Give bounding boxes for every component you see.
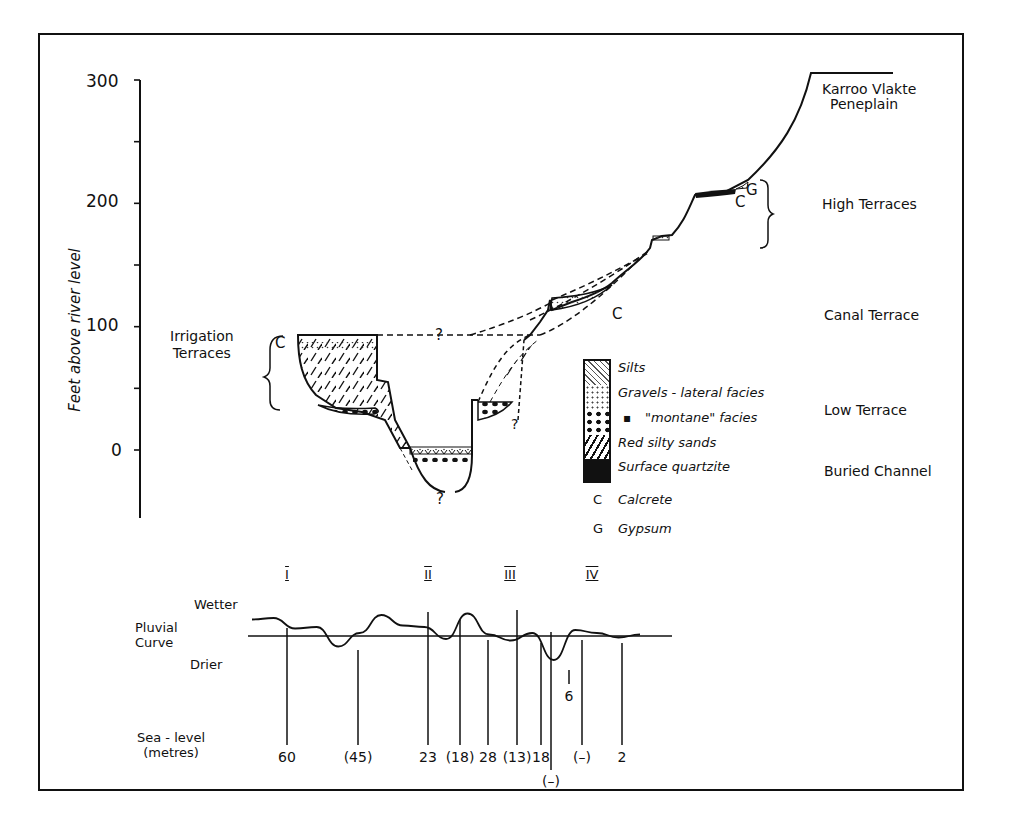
legend-swatch-column <box>583 359 611 483</box>
swatch-surface-quartzite <box>585 459 609 481</box>
label-line: (metres) <box>137 745 205 760</box>
terrace-label-high: High Terraces <box>822 196 917 212</box>
high-terrace-gravel <box>653 236 669 240</box>
legend-symbol-calcrete: C <box>593 492 602 507</box>
y-tick-label: 200 <box>86 191 118 211</box>
swatch-gravels-lateral <box>585 385 609 410</box>
terrace-label-low: Low Terrace <box>824 402 907 418</box>
legend-ditto-mark: ▪ <box>623 411 631 425</box>
swatch-silts <box>585 361 609 385</box>
legend-label-gravels-montane: "montane" facies <box>645 410 757 425</box>
terrace-label-irrigation: Irrigation Terraces <box>170 328 234 362</box>
silts-layer <box>410 447 472 454</box>
legend-label-silts: Silts <box>618 360 645 375</box>
high-terraces-brace <box>760 180 773 248</box>
sea-level-value: 6 <box>539 688 599 704</box>
gravel-layer <box>413 456 471 462</box>
question-mark: ? <box>435 326 443 344</box>
label-line: Curve <box>135 635 178 650</box>
correlation-lines <box>377 250 650 335</box>
pluvial-period-label: IV <box>572 567 612 582</box>
y-axis-label: Feet above river level <box>66 247 84 411</box>
question-mark: ? <box>436 490 444 508</box>
legend-label-surface-quartzite: Surface quartzite <box>618 459 730 474</box>
sea-level-value: (45) <box>328 749 388 765</box>
pluvial-period-label: II <box>408 567 448 582</box>
y-tick-label: 100 <box>86 315 118 335</box>
high-terrace-quartzite <box>695 189 736 198</box>
sea-level-title: Sea - level (metres) <box>137 730 205 760</box>
legend-label-red-silty-sands: Red silty sands <box>618 435 716 450</box>
swatch-gravels-montane <box>585 410 609 435</box>
y-tick-label: 0 <box>111 440 122 460</box>
label-line: Karroo Vlakte <box>822 82 916 97</box>
sea-level-value: 2 <box>592 749 652 765</box>
legend-label-gravels-lateral: Gravels - lateral facies <box>618 385 764 400</box>
sea-level-value: (–) <box>521 773 581 789</box>
calcrete-marker: C <box>275 334 285 352</box>
terrace-label-buried: Buried Channel <box>824 463 932 479</box>
swatch-red-silty-sands <box>585 435 609 459</box>
terrace-label-canal: Canal Terrace <box>824 307 919 323</box>
label-line: Sea - level <box>137 730 205 745</box>
label-line: Irrigation <box>170 328 234 345</box>
label-line: Peneplain <box>822 97 916 112</box>
buried-channel <box>400 400 478 492</box>
pluvial-period-label: I <box>267 567 307 582</box>
wetter-label: Wetter <box>194 597 238 612</box>
gypsum-marker: G <box>746 181 758 199</box>
legend-label-calcrete: Calcrete <box>618 492 672 507</box>
terrace-label-karroo: Karroo Vlakte Peneplain <box>822 82 916 112</box>
legend-symbol-gypsum: G <box>593 521 603 536</box>
legend-label-gypsum: Gypsum <box>618 521 672 536</box>
label-line: Pluvial <box>135 620 178 635</box>
calcrete-marker: C <box>735 193 745 211</box>
question-mark: ? <box>511 416 518 432</box>
irrigation-terrace-deposit <box>298 335 410 448</box>
pluvial-period-label: III <box>490 567 530 582</box>
silts-band <box>300 342 376 350</box>
drier-label: Drier <box>190 657 222 672</box>
low-terrace-deposit <box>478 335 538 420</box>
y-tick-label: 300 <box>86 71 118 91</box>
label-line: Terraces <box>170 345 234 362</box>
sea-level-value: 60 <box>257 749 317 765</box>
calcrete-marker: C <box>612 305 622 323</box>
pluvial-curve-title: Pluvial Curve <box>135 620 178 650</box>
